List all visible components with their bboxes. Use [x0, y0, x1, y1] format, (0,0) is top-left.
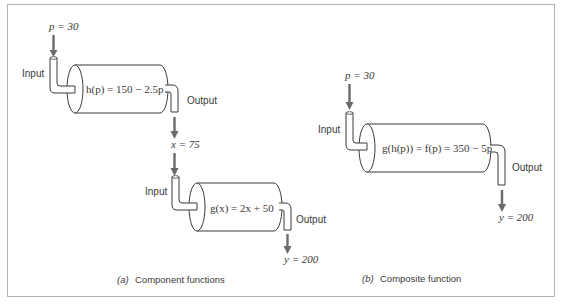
- caption-a: (a) Component functions: [117, 274, 225, 285]
- output-value-y: y = 200: [283, 253, 319, 265]
- output-label: Output: [512, 162, 542, 173]
- formula-g: g(x) = 2x + 50: [210, 202, 274, 215]
- caption-b: (b) Composite function: [362, 273, 461, 284]
- caption-b-letter: (b): [362, 273, 374, 284]
- output-value-y: y = 200: [498, 211, 534, 223]
- output-label: Output: [187, 95, 217, 106]
- formula-h: h(p) = 150 − 2.5p: [86, 83, 164, 96]
- input-label: Input: [318, 124, 340, 135]
- output-value-x: x = 75: [170, 138, 200, 150]
- input-label: Input: [22, 68, 44, 79]
- machine-g: Input Output g(x) = 2x + 50 y = 200: [145, 176, 326, 265]
- figure-composite-functions: p = 30 Input Output h(p) = 150 − 2.5p x …: [0, 0, 566, 305]
- input-value-p: p = 30: [344, 69, 375, 81]
- output-label: Output: [296, 214, 326, 225]
- caption-a-letter: (a): [117, 274, 129, 285]
- input-value-p: p = 30: [48, 20, 79, 32]
- machine-f: p = 30 Input Output g(h(p)) = f(p) = 350…: [318, 69, 542, 223]
- input-label: Input: [145, 186, 167, 197]
- caption-a-text: Component functions: [135, 274, 225, 285]
- formula-f: g(h(p)) = f(p) = 350 − 5p: [382, 142, 493, 155]
- caption-b-text: Composite function: [380, 273, 461, 284]
- machine-h: p = 30 Input Output h(p) = 150 − 2.5p x …: [22, 20, 217, 176]
- diagram-canvas: p = 30 Input Output h(p) = 150 − 2.5p x …: [0, 0, 566, 305]
